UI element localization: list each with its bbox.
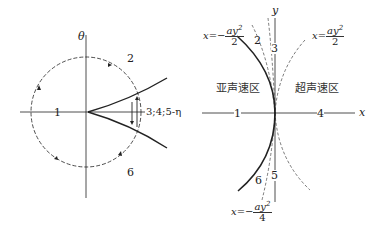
formula-upper-left: x=− ay2 2	[203, 25, 244, 47]
line-label-2: 2	[254, 35, 261, 46]
region-label-1: 1	[54, 107, 61, 118]
supersonic-region-label: 超声速区	[295, 83, 339, 94]
arrow-icon	[54, 156, 58, 160]
x-axis-label: x	[359, 107, 365, 118]
subsonic-region-label: 亚声速区	[216, 83, 260, 94]
arrow-icon	[130, 121, 134, 125]
formula-lower-left: x=− ay2 4	[231, 201, 272, 223]
region-label-2: 2	[127, 53, 134, 64]
line-label-5: 5	[271, 170, 278, 181]
line-label-1: 1	[234, 108, 241, 119]
eta-axis-label: 3;4;5-η	[146, 107, 181, 117]
left-diagram	[20, 35, 167, 198]
sonic-line-curve	[237, 36, 275, 191]
theta-label: θ	[78, 31, 85, 42]
line-label-3: 3	[271, 43, 278, 54]
line-label-6: 6	[255, 175, 262, 186]
arrow-icon	[118, 151, 122, 156]
y-axis-label: y	[272, 5, 278, 16]
lower-cusp-curve	[88, 112, 167, 148]
region-label-6: 6	[127, 167, 134, 178]
char-curve-6	[262, 113, 275, 200]
line-label-4: 4	[317, 108, 324, 119]
arrow-icon	[135, 96, 139, 100]
formula-upper-right: x= ay2 2	[312, 25, 344, 47]
char-curve-right	[275, 40, 310, 190]
